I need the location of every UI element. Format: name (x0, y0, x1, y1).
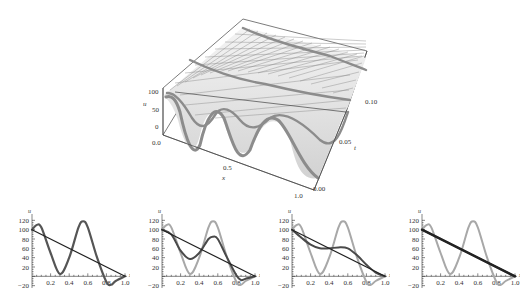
y-tick-label: 60 (152, 245, 160, 253)
profile-plot-2: 12010080604020−200.20.40.60.81.0ux (130, 206, 260, 298)
y-tick-label: 20 (282, 264, 290, 272)
y-tick-label: 100 (149, 226, 160, 234)
y-tick-label: 120 (19, 217, 30, 225)
y-tick-label: 60 (412, 245, 420, 253)
profile-plot-4: 12010080604020−200.20.40.60.81.0ux (390, 206, 520, 298)
y-tick-label: 40 (22, 254, 30, 262)
series-steady (292, 230, 385, 277)
y-tick-label: −20 (408, 282, 419, 290)
series-steady (32, 230, 125, 277)
y-tick-label: 20 (152, 264, 160, 272)
u-axis-label: u (418, 208, 421, 214)
y-tick-label: 40 (412, 254, 420, 262)
u-axis-label: u (288, 208, 291, 214)
x-tick-label: 0.4 (65, 279, 74, 287)
x-tick-label: 1.0 (381, 279, 390, 287)
u-axis-label: u (158, 208, 161, 214)
x-tick-label: 0.2 (436, 279, 445, 287)
x-tick-0: 0.0 (152, 139, 161, 147)
y-tick-label: 120 (279, 217, 290, 225)
u-tick-100: 100 (148, 88, 159, 96)
y-tick-label: 40 (282, 254, 290, 262)
x-axis-label: x (518, 272, 520, 278)
y-tick-label: −20 (278, 282, 289, 290)
y-tick-label: 120 (409, 217, 420, 225)
t-tick-005: 0.05 (339, 138, 352, 146)
y-tick-label: 80 (22, 236, 30, 244)
x-tick-label: 0.6 (343, 279, 352, 287)
x-tick-label: 0.6 (83, 279, 92, 287)
y-tick-label: 80 (412, 236, 420, 244)
y-tick-label: 60 (282, 245, 290, 253)
surface-plot-3d: 100 50 0 u 0.0 0.5 x 1.0 0.00 0.05 t 0.1… (0, 0, 528, 210)
t-tick-010: 0.10 (365, 98, 378, 106)
u-axis-label: u (143, 100, 147, 108)
y-tick-label: −20 (18, 282, 29, 290)
y-tick-label: 40 (152, 254, 160, 262)
y-tick-label: 80 (282, 236, 290, 244)
x-tick-label: 0.2 (306, 279, 315, 287)
x-tick-label: 0.6 (213, 279, 222, 287)
y-tick-label: 100 (409, 226, 420, 234)
x-tick-label: 0.2 (46, 279, 55, 287)
u-tick-50: 50 (152, 106, 160, 114)
x-tick-label: 0.4 (195, 279, 204, 287)
series-steady (162, 230, 255, 277)
t-axis-label: t (354, 144, 357, 152)
y-tick-label: 20 (412, 264, 420, 272)
x-tick-label: 0.2 (176, 279, 185, 287)
x-tick-label: 0.6 (473, 279, 482, 287)
x-tick-label: 1.0 (121, 279, 130, 287)
y-tick-label: 20 (22, 264, 30, 272)
x-tick-label: 0.4 (455, 279, 464, 287)
x-tick-05: 0.5 (223, 164, 232, 172)
series-steady (422, 230, 515, 277)
y-tick-label: 120 (149, 217, 160, 225)
y-tick-label: 60 (22, 245, 30, 253)
y-tick-label: 100 (279, 226, 290, 234)
x-axis-label: x (221, 174, 226, 182)
y-tick-label: 80 (152, 236, 160, 244)
y-tick-label: −20 (148, 282, 159, 290)
x-tick-label: 1.0 (251, 279, 260, 287)
profile-plot-3: 12010080604020−200.20.40.60.81.0ux (260, 206, 390, 298)
y-tick-label: 100 (19, 226, 30, 234)
u-tick-0: 0 (155, 123, 159, 131)
x-tick-1: 1.0 (294, 192, 303, 200)
x-tick-label: 0.4 (325, 279, 334, 287)
u-axis-label: u (28, 208, 31, 214)
t-tick-000: 0.00 (313, 185, 326, 193)
profile-plot-1: 12010080604020−200.20.40.60.81.0ux (0, 206, 130, 298)
x-tick-label: 1.0 (511, 279, 520, 287)
